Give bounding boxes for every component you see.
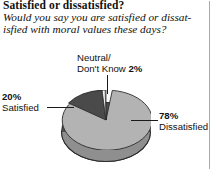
leader-line-satisfied xyxy=(47,107,74,108)
label-neutral-line2: Don't Know xyxy=(77,63,128,74)
label-neutral-line1: Neutral/ xyxy=(77,52,111,63)
label-satisfied-value: 20% xyxy=(2,91,21,102)
subtitle-line-2: isfied with moral values these days? xyxy=(3,24,207,36)
vertical-divider xyxy=(209,1,210,169)
label-satisfied-text: Satisfied xyxy=(2,102,39,113)
leader-line-neutral xyxy=(107,75,108,94)
label-neutral-value: 2% xyxy=(128,63,142,74)
label-satisfied: 20% Satisfied xyxy=(2,91,39,113)
label-dissatisfied-text: Dissatisfied xyxy=(159,121,208,132)
label-dissatisfied-value: 78% xyxy=(159,110,178,121)
chart-figure: Satisfied or dissatisfied? Would you say… xyxy=(0,0,220,171)
label-dissatisfied: 78% Dissatisfied xyxy=(159,110,208,132)
label-neutral: Neutral/ Don't Know 2% xyxy=(77,52,142,74)
leader-line-dissatisfied xyxy=(131,120,158,121)
subtitle: Would you say you are satisfied or dissa… xyxy=(3,12,207,36)
